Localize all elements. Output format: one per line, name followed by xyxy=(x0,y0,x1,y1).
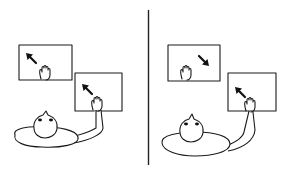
diagram xyxy=(0,0,288,172)
screen-right-2 xyxy=(228,73,276,111)
hand-icon xyxy=(92,97,102,112)
arrow-up-left-icon xyxy=(82,84,92,94)
arrow-up-left-icon xyxy=(26,53,36,63)
arrow-up-left-icon xyxy=(235,87,245,97)
screen-left-1 xyxy=(19,45,72,80)
hand-icon xyxy=(181,66,191,81)
person-left xyxy=(15,97,103,148)
hand-icon xyxy=(245,98,255,113)
screen-left-2 xyxy=(75,73,122,111)
hand-icon xyxy=(40,66,50,81)
screen-right-1 xyxy=(168,45,220,81)
diagram-canvas xyxy=(0,0,288,172)
panel-left xyxy=(15,45,122,147)
person-right xyxy=(162,98,255,157)
arrow-up-right-icon xyxy=(199,56,209,66)
panel-right xyxy=(162,45,276,156)
